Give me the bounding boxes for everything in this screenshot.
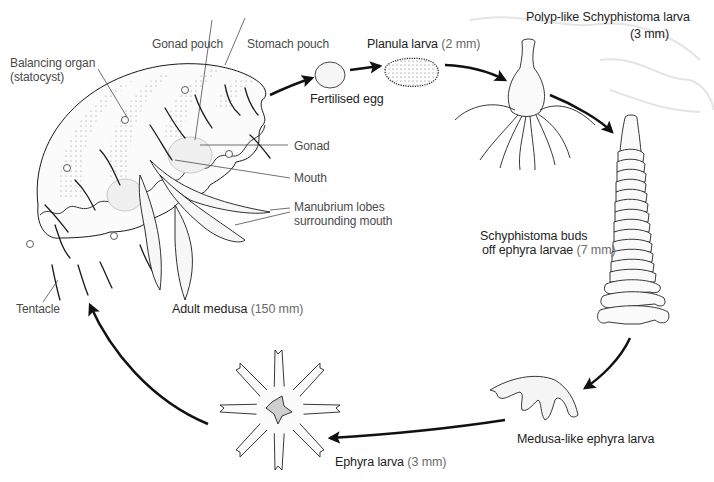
- background-sketch: [470, 17, 714, 112]
- label-statocyst-line1: Balancing organ: [10, 56, 95, 70]
- arrow-ephyra-to-ephyra: [330, 420, 505, 438]
- label-gonad: Gonad: [294, 139, 330, 153]
- stage-name-line1: Schyphistoma buds: [480, 229, 616, 243]
- label-gonad-pouch: Gonad pouch: [152, 37, 223, 51]
- label-mouth: Mouth: [294, 171, 327, 185]
- stage-size: (3 mm): [407, 455, 446, 469]
- ephyra-larva-illustration: [220, 350, 340, 470]
- fertilised-egg-illustration: [315, 62, 345, 88]
- label-manubrium-line1: Manubrium lobes: [294, 200, 392, 214]
- label-strobila: Schyphistoma buds off ephyra larvae (7 m…: [480, 229, 616, 257]
- label-statocyst-line2: (statocyst): [10, 70, 95, 84]
- adult-medusa-illustration: [27, 64, 271, 300]
- arrow-planula-to-polyp: [445, 65, 505, 80]
- label-manubrium: Manubrium lobes surrounding mouth: [294, 200, 392, 228]
- arrow-adult-to-egg: [270, 78, 312, 95]
- label-planula-larva: Planula larva (2 mm): [367, 37, 480, 51]
- stage-name-line2: off ephyra larvae (7 mm): [480, 243, 616, 257]
- label-medusa-like-ephyra: Medusa-like ephyra larva: [517, 432, 654, 446]
- stage-size: (150 mm): [251, 302, 304, 316]
- label-adult-medusa: Adult medusa (150 mm): [172, 302, 303, 316]
- stage-name: Planula larva: [367, 37, 438, 51]
- label-polyp-size: (3 mm): [630, 27, 669, 41]
- label-ephyra-larva: Ephyra larva (3 mm): [335, 455, 446, 469]
- arrow-strobila-to-ephyra: [585, 338, 630, 388]
- label-stomach-pouch: Stomach pouch: [247, 37, 329, 51]
- label-fertilised-egg: Fertilised egg: [310, 92, 384, 106]
- arrow-egg-to-planula: [350, 66, 380, 70]
- stage-name: Ephyra larva: [335, 455, 404, 469]
- stage-size: (2 mm): [441, 37, 480, 51]
- label-manubrium-line2: surrounding mouth: [294, 214, 392, 228]
- stage-name: Adult medusa: [172, 302, 247, 316]
- label-statocyst: Balancing organ (statocyst): [10, 56, 95, 84]
- medusa-like-ephyra-illustration: [490, 376, 578, 420]
- polyp-larva-illustration: [455, 39, 595, 170]
- strobila-illustration: [598, 115, 669, 324]
- planula-larva-illustration: [385, 58, 438, 86]
- label-polyp-larva: Polyp-like Schyphistoma larva: [526, 10, 690, 24]
- label-tentacle: Tentacle: [16, 302, 60, 316]
- arrow-ephyra-to-adult: [90, 305, 208, 424]
